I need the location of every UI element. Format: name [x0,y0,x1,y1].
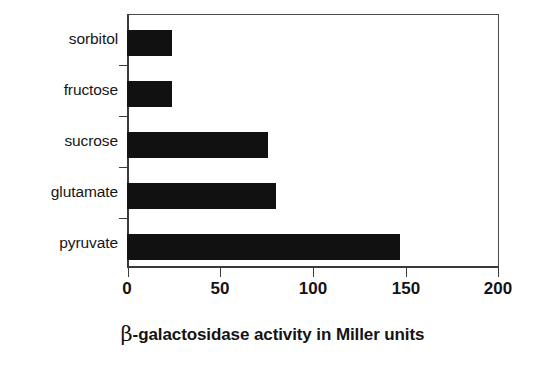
x-axis-title-text: -galactosidase activity in Miller units [133,325,425,344]
y-axis-label-glutamate: glutamate [0,184,118,200]
y-axis-label-fructose: fructose [0,82,118,98]
x-axis-tick-150 [406,268,407,277]
bar-sorbitol [127,30,172,56]
x-axis-tick-label-0: 0 [97,280,157,297]
x-axis-tick-200 [498,268,499,277]
y-axis-label-pyruvate: pyruvate [0,235,118,251]
x-axis-tick-50 [220,268,221,277]
x-axis-tick-100 [313,268,314,277]
y-axis-label-sorbitol: sorbitol [0,31,118,47]
bar-chart-figure: sorbitol fructose sucrose glutamate pyru… [0,0,545,366]
x-axis-tick-0 [128,268,129,277]
x-axis-tick-label-150: 150 [376,280,436,297]
plot-area [127,14,499,268]
x-axis-tick-label-200: 200 [468,280,528,297]
bar-pyruvate [127,234,400,260]
y-axis-label-sucrose: sucrose [0,133,118,149]
x-axis-tick-label-50: 50 [190,280,250,297]
bar-sucrose [127,132,268,158]
y-axis-category-labels: sorbitol fructose sucrose glutamate pyru… [0,14,118,268]
x-axis-title: β-galactosidase activity in Miller units [0,322,545,346]
x-axis-tick-label-100: 100 [283,280,343,297]
bar-glutamate [127,183,276,209]
beta-symbol: β [121,322,133,346]
bar-fructose [127,81,172,107]
